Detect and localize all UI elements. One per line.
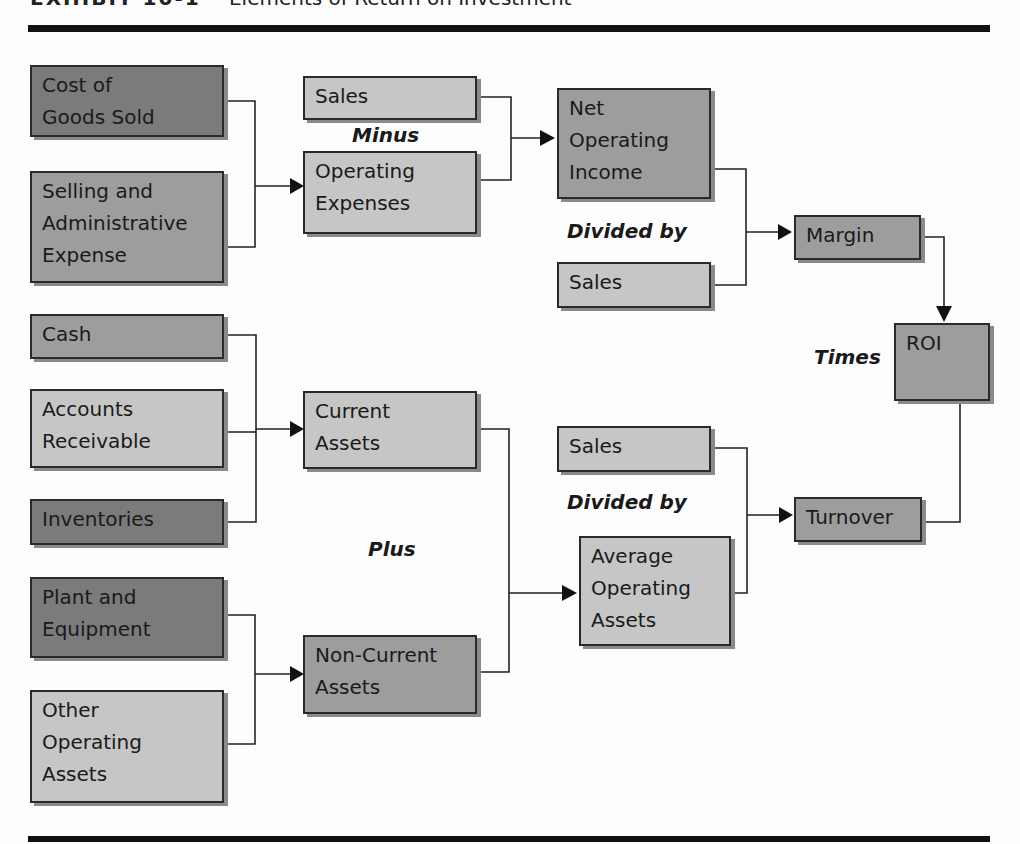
box-sales-bottom: Sales: [557, 426, 711, 472]
box-non-current-assets: Non-Current Assets: [303, 635, 477, 714]
operator-minus: Minus: [352, 123, 419, 147]
box-selling-admin-expense: Selling and Administrative Expense: [30, 171, 224, 283]
operator-plus: Plus: [368, 537, 416, 561]
operator-divided-by-bottom: Divided by: [567, 490, 687, 514]
box-average-operating-assets: Average Operating Assets: [579, 536, 731, 646]
box-sales-top: Sales: [303, 76, 477, 120]
box-sales-middle: Sales: [557, 262, 711, 308]
box-accounts-receivable: Accounts Receivable: [30, 389, 224, 468]
box-cost-of-goods-sold: Cost of Goods Sold: [30, 65, 224, 137]
exhibit-title: EXHIBIT 10-1 Elements of Return on Inves…: [30, 0, 571, 10]
exhibit-number: EXHIBIT 10-1: [30, 0, 201, 10]
box-inventories: Inventories: [30, 499, 224, 545]
box-plant-and-equipment: Plant and Equipment: [30, 577, 224, 658]
box-turnover: Turnover: [794, 497, 922, 542]
operator-divided-by-top: Divided by: [567, 219, 687, 243]
box-net-operating-income: Net Operating Income: [557, 88, 711, 199]
box-current-assets: Current Assets: [303, 391, 477, 469]
exhibit-title-text: Elements of Return on Investment: [229, 0, 572, 10]
box-cash: Cash: [30, 314, 224, 359]
bottom-rule: [28, 836, 990, 842]
operator-times: Times: [814, 345, 881, 369]
box-margin: Margin: [794, 215, 921, 260]
box-roi: ROI: [894, 323, 990, 401]
box-other-operating-assets: Other Operating Assets: [30, 690, 224, 803]
top-rule: [28, 25, 990, 32]
box-operating-expenses: Operating Expenses: [303, 151, 477, 234]
